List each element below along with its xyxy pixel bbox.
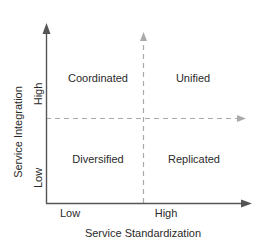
x-axis-title: Service Standardization — [85, 228, 201, 239]
quadrant-replicated: Replicated — [168, 154, 220, 165]
quadrant-coordinated: Coordinated — [68, 73, 128, 84]
x-axis-high-label: High — [155, 208, 178, 219]
quadrant-dividers — [46, 32, 246, 203]
y-axis-high-label: High — [33, 83, 44, 106]
x-axis-low-label: Low — [60, 208, 80, 219]
quadrant-unified: Unified — [176, 73, 210, 84]
y-axis-title: Service Integration — [13, 86, 24, 178]
horizontal-divider-arrowhead-icon — [237, 115, 246, 122]
y-axis-low-label: Low — [33, 168, 44, 188]
y-axis-arrowhead-icon — [43, 23, 51, 34]
matrix-canvas — [0, 0, 278, 248]
vertical-divider-arrowhead-icon — [140, 32, 147, 41]
axes — [43, 23, 253, 208]
quadrant-diversified: Diversified — [72, 154, 123, 165]
x-axis-arrowhead-icon — [241, 200, 252, 208]
